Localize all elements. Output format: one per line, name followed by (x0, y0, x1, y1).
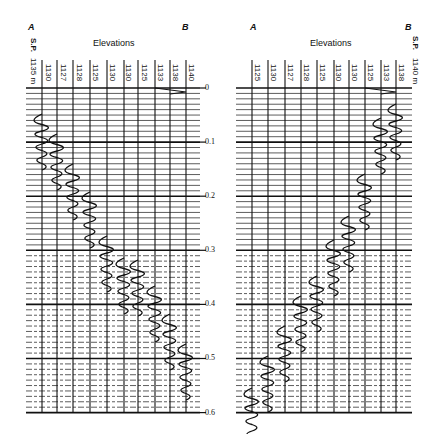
seismic-sections (0, 0, 433, 434)
